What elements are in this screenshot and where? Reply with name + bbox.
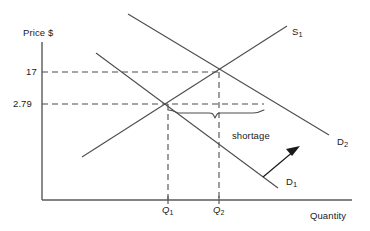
demand-shift-arrow-shaft	[263, 151, 294, 177]
curve-d1-base: D	[286, 176, 293, 187]
y-tick-label-279: 2.79	[13, 99, 32, 109]
demand-shift-arrow-head	[286, 146, 300, 156]
supply-demand-diagram: Price $ 17 2.79 Q1 Q2 Quantity S1 D2 D1 …	[0, 0, 370, 231]
x-tick-q1-base: Q	[162, 204, 170, 215]
demand-curve-d1	[96, 53, 278, 188]
curve-d1-subscript: 1	[293, 180, 297, 189]
x-tick-q2-base: Q	[213, 204, 221, 215]
curve-d2-base: D	[337, 136, 344, 147]
curve-d2-subscript: 2	[344, 140, 348, 149]
curve-label-s1: S1	[292, 27, 303, 37]
x-tick-q1-subscript: 1	[170, 209, 174, 216]
curve-label-d1: D1	[286, 177, 297, 187]
shortage-label: shortage	[232, 131, 270, 141]
x-tick-q2-subscript: 2	[221, 209, 225, 216]
x-tick-label-q2: Q2	[213, 205, 224, 215]
y-axis-label: Price $	[23, 28, 53, 38]
curve-label-d2: D2	[337, 137, 348, 147]
diagram-canvas	[0, 0, 370, 231]
x-axis-label: Quantity	[310, 211, 346, 221]
x-tick-label-q1: Q1	[162, 205, 173, 215]
y-tick-label-17: 17	[26, 67, 37, 77]
curve-s1-subscript: 1	[298, 30, 302, 39]
